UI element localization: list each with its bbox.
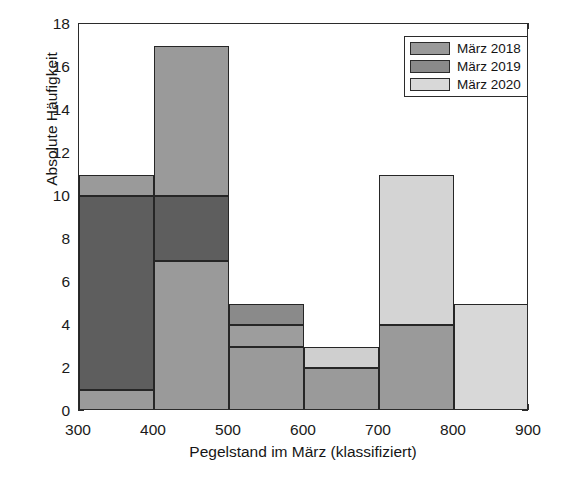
- x-axis-tick-label: 900: [498, 421, 558, 439]
- legend[interactable]: März 2018März 2019März 2020: [404, 36, 528, 97]
- x-axis-tick-label: 300: [48, 421, 108, 439]
- x-axis-tick-label: 800: [423, 421, 483, 439]
- bar-segment: [229, 304, 304, 326]
- y-axis-tick-label: 4: [26, 316, 70, 334]
- y-axis-title: Absolute Häufigkeit: [43, 4, 61, 234]
- y-axis-tick-label: 0: [26, 402, 70, 420]
- legend-item[interactable]: März 2018: [410, 41, 521, 56]
- histogram-figure: Absolute Häufigkeit 02468101214161830040…: [0, 0, 570, 480]
- bar-segment: [304, 347, 379, 369]
- legend-swatch-icon: [410, 60, 450, 73]
- y-axis-tick: [522, 410, 528, 411]
- bar-segment: [79, 175, 154, 197]
- bar-segment: [154, 261, 229, 411]
- bar-segment: [304, 368, 379, 410]
- legend-swatch-icon: [410, 42, 450, 55]
- bar-segment: [454, 304, 528, 411]
- legend-swatch-icon: [410, 78, 450, 91]
- bar-segment: [154, 196, 229, 261]
- x-axis-tick-label: 700: [348, 421, 408, 439]
- bar-segment: [229, 347, 304, 411]
- legend-item[interactable]: März 2019: [410, 59, 521, 74]
- bar-segment: [79, 196, 154, 390]
- x-axis-tick: [528, 404, 529, 410]
- bar-segment: [229, 325, 304, 347]
- y-axis-tick: [78, 410, 84, 411]
- x-axis-tick-label: 600: [273, 421, 333, 439]
- x-axis-title: Pegelstand im März (klassifiziert): [78, 443, 528, 461]
- bar-segment: [154, 46, 229, 197]
- y-axis-tick-label: 6: [26, 273, 70, 291]
- legend-item-label: März 2018: [457, 42, 521, 56]
- bar-segment: [379, 325, 454, 410]
- x-axis-tick-label: 400: [123, 421, 183, 439]
- bar-segment: [79, 390, 154, 411]
- bar-segment: [379, 175, 454, 326]
- x-axis-tick-label: 500: [198, 421, 258, 439]
- legend-item-label: März 2019: [457, 60, 521, 74]
- x-axis-tick: [528, 23, 529, 29]
- legend-item[interactable]: März 2020: [410, 77, 521, 92]
- legend-item-label: März 2020: [457, 78, 521, 92]
- y-axis-tick-label: 2: [26, 359, 70, 377]
